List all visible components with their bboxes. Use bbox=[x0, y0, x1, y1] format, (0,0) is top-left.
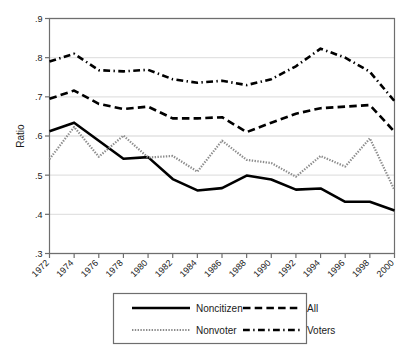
legend-label-noncitizen: Noncitizen bbox=[196, 303, 243, 314]
legend-box bbox=[114, 294, 307, 344]
y-tick-label: .9 bbox=[35, 14, 43, 24]
line-chart: .3.4.5.6.7.8.9 1972197419761978198019821… bbox=[0, 0, 419, 355]
y-tick-label: .5 bbox=[35, 171, 43, 181]
chart-legend: NoncitizenAllNonvoterVoters bbox=[114, 294, 336, 344]
y-tick-label: .8 bbox=[35, 53, 43, 63]
y-axis-label: Ratio bbox=[15, 124, 26, 148]
y-tick-label: .4 bbox=[35, 210, 43, 220]
legend-label-voters: Voters bbox=[307, 325, 335, 336]
y-tick-label: .6 bbox=[35, 131, 43, 141]
legend-label-all: All bbox=[307, 303, 318, 314]
y-tick-label: .7 bbox=[35, 92, 43, 102]
y-tick-label: .3 bbox=[35, 249, 43, 259]
chart-figure: .3.4.5.6.7.8.9 1972197419761978198019821… bbox=[0, 0, 419, 355]
legend-label-nonvoter: Nonvoter bbox=[196, 325, 237, 336]
